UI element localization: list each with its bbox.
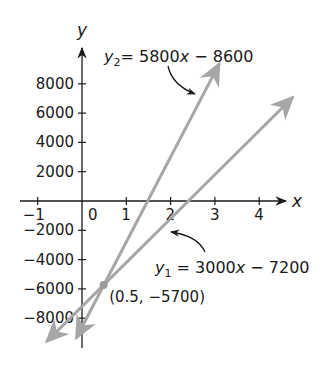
- y-tick-label: 4000: [36, 133, 74, 151]
- y-tick-label: −4000: [23, 251, 74, 269]
- y-axis-label: y: [76, 20, 88, 40]
- y-tick-label: −2000: [23, 221, 74, 239]
- x-tick-label: 4: [254, 206, 264, 224]
- y1-equation-label: y1 = 3000x − 7200: [154, 258, 310, 280]
- chart-canvas: x y −101234 8000600040002000−2000−4000−6…: [0, 0, 326, 373]
- y2-equation-label: y2= 5800x − 8600: [103, 47, 253, 69]
- y-tick-label: −6000: [23, 280, 74, 298]
- x-tick-label: 3: [210, 206, 220, 224]
- series-line-y2: [76, 201, 148, 338]
- y1-callout-arrow: [171, 232, 205, 252]
- y-tick-label: 8000: [36, 75, 74, 93]
- intersection-label: (0.5, −5700): [109, 288, 205, 306]
- y2-callout-arrow: [168, 66, 195, 94]
- y-tick-label: −8000: [23, 309, 74, 327]
- y-tick-label: 2000: [36, 163, 74, 181]
- x-axis-label: x: [291, 191, 303, 211]
- y-tick-label: 6000: [36, 104, 74, 122]
- x-tick-label: 1: [121, 206, 131, 224]
- x-tick-label: 0: [88, 206, 98, 224]
- intersection-point: [100, 281, 108, 289]
